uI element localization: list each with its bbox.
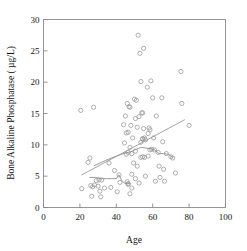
data-point — [137, 181, 141, 185]
data-point — [118, 180, 122, 184]
x-tick-label: 20 — [75, 212, 85, 222]
data-point — [180, 101, 184, 105]
y-tick-label: 10 — [31, 140, 41, 150]
data-point — [139, 79, 143, 83]
y-axis-title: Bone Alkaline Phosphatase ( µg/L) — [6, 46, 17, 180]
data-point — [149, 79, 153, 83]
data-point — [131, 161, 135, 165]
regression-line — [82, 120, 185, 175]
data-point — [79, 108, 83, 112]
x-tick-label: 60 — [148, 212, 158, 222]
data-point — [122, 141, 126, 145]
data-point — [136, 33, 140, 37]
data-point — [135, 125, 139, 129]
data-point — [162, 167, 166, 171]
data-point — [112, 168, 116, 172]
smoothed-curve — [94, 147, 172, 165]
x-axis-ticks — [44, 204, 226, 208]
data-point — [80, 187, 84, 191]
data-point — [142, 126, 146, 130]
data-point — [91, 105, 95, 109]
data-point — [158, 175, 162, 179]
data-point — [157, 164, 161, 168]
x-axis-tick-labels: 020406080100 — [41, 212, 233, 222]
data-point — [129, 123, 133, 127]
y-tick-label: 15 — [31, 109, 41, 119]
bone-alp-scatter-figure: 051015202530 020406080100 Age Bone Alkal… — [0, 0, 247, 251]
data-point — [179, 69, 183, 73]
x-tick-label: 80 — [185, 212, 195, 222]
data-point — [131, 136, 135, 140]
data-point — [161, 140, 165, 144]
data-point — [88, 156, 92, 160]
data-point — [154, 114, 158, 118]
data-point — [96, 184, 100, 188]
data-point — [133, 177, 137, 181]
x-tick-label: 40 — [112, 212, 122, 222]
data-point — [99, 195, 103, 199]
data-point — [109, 185, 113, 189]
data-point — [115, 190, 119, 194]
scatter-plot-svg: 051015202530 020406080100 Age Bone Alkal… — [0, 0, 247, 251]
data-point — [128, 192, 132, 196]
x-tick-label: 0 — [41, 212, 46, 222]
y-tick-label: 30 — [31, 15, 41, 25]
data-point — [137, 115, 141, 119]
data-point — [160, 96, 164, 100]
x-axis-title: Age — [126, 235, 142, 245]
data-point — [102, 186, 106, 190]
data-point — [138, 51, 142, 55]
data-point — [153, 179, 157, 183]
data-point — [130, 172, 134, 176]
data-point — [142, 46, 146, 50]
data-point — [121, 123, 125, 127]
data-point — [145, 85, 149, 89]
data-point — [187, 123, 191, 127]
scatter-markers — [79, 33, 191, 199]
plot-frame — [44, 20, 226, 208]
y-tick-label: 20 — [31, 77, 41, 87]
data-point — [123, 114, 127, 118]
data-point — [90, 194, 94, 198]
data-point — [130, 186, 134, 190]
data-point — [151, 96, 155, 100]
data-point — [98, 189, 102, 193]
y-tick-label: 5 — [35, 171, 40, 181]
data-point — [146, 154, 150, 158]
data-point — [173, 171, 177, 175]
linear-fit-line — [82, 120, 185, 175]
data-point — [143, 174, 147, 178]
y-tick-label: 25 — [31, 46, 41, 56]
y-axis-ticks — [44, 20, 48, 208]
y-tick-label: 0 — [35, 203, 40, 213]
y-axis-tick-labels: 051015202530 — [31, 15, 41, 213]
data-point — [162, 179, 166, 183]
data-point — [86, 160, 90, 164]
data-point — [135, 164, 139, 168]
x-tick-label: 100 — [219, 212, 233, 222]
